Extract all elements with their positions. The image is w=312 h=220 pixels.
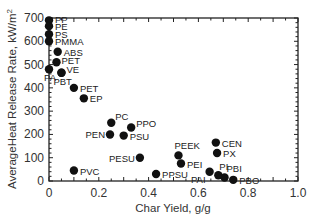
data-point: PX [213, 148, 237, 159]
point-marker [174, 151, 182, 159]
data-point: PEI [177, 159, 203, 170]
point-marker [152, 170, 160, 178]
point-label: PPSU [162, 169, 188, 180]
point-marker [213, 149, 221, 157]
point-marker [136, 154, 144, 162]
data-point: PC [107, 111, 129, 127]
point-label: PEN [85, 129, 105, 140]
x-tick-label: 0 [46, 186, 53, 200]
point-marker [229, 176, 237, 184]
point-marker [52, 58, 60, 66]
y-tick-label: 0 [37, 174, 44, 188]
data-point: PSU [120, 131, 150, 142]
data-point: CEN [212, 138, 242, 149]
data-point: PAI [191, 167, 214, 184]
data-point: PVC [70, 166, 100, 177]
point-marker [45, 37, 53, 45]
x-axis-title: Char Yield, g/g [135, 202, 210, 214]
x-tick-label: 0.6 [190, 186, 207, 200]
data-point: PBO [229, 175, 259, 186]
x-tick-label: 1.0 [290, 186, 307, 200]
data-point: PEN [85, 129, 114, 140]
point-label: PEEK [174, 140, 200, 151]
point-marker [45, 22, 53, 30]
point-label: PEI [187, 159, 202, 170]
point-marker [80, 94, 88, 102]
data-point: PET [70, 83, 99, 94]
data-points: PPPEPSPMMAABSPETPAVEPBTPETEPPCPPOPENPSUP… [44, 14, 259, 186]
point-label: PX [223, 148, 236, 159]
y-tick-label: 400 [24, 81, 44, 95]
y-tick-label: 600 [24, 34, 44, 48]
x-tick-labels: 00.20.40.60.81.0 [46, 186, 307, 200]
y-tick-label: 100 [24, 151, 44, 165]
point-marker [106, 130, 114, 138]
x-tick-label: 0.4 [140, 186, 157, 200]
point-marker [220, 173, 228, 181]
point-label: PAI [191, 174, 206, 185]
data-point: PEEK [174, 140, 200, 159]
x-tick-label: 0.8 [240, 186, 257, 200]
point-label: VE [66, 64, 79, 75]
point-marker [70, 166, 78, 174]
point-label: CEN [222, 138, 242, 149]
data-point: PESU [109, 153, 144, 164]
y-tick-label: 300 [24, 104, 44, 118]
point-marker [107, 119, 115, 127]
point-label: PBO [239, 175, 259, 186]
point-label: PPO [136, 118, 156, 129]
scatter-chart: 00.20.40.60.81.0 0100200300400500600700 … [0, 0, 312, 220]
point-label: PVC [80, 166, 100, 177]
point-label: EP [90, 93, 103, 104]
point-label: PET [80, 83, 99, 94]
point-label: PSU [130, 131, 150, 142]
x-tick-label: 0.2 [90, 186, 107, 200]
point-label: PC [115, 111, 128, 122]
y-axis-title: AverageHeat Release Rate, kW/m2 [5, 8, 18, 189]
point-label: PBT [53, 76, 72, 87]
y-tick-label: 200 [24, 127, 44, 141]
y-tick-labels: 0100200300400500600700 [24, 11, 44, 188]
point-marker [212, 138, 220, 146]
point-label: PESU [109, 153, 135, 164]
data-point: EP [80, 93, 103, 104]
data-point: PPSU [152, 169, 188, 180]
point-marker [70, 84, 78, 92]
point-label: PBI [227, 163, 242, 174]
point-marker [120, 131, 128, 139]
point-marker [205, 167, 213, 175]
y-tick-label: 500 [24, 58, 44, 72]
point-marker [177, 159, 185, 167]
point-label: PMMA [55, 36, 84, 47]
y-tick-label: 700 [24, 11, 44, 25]
